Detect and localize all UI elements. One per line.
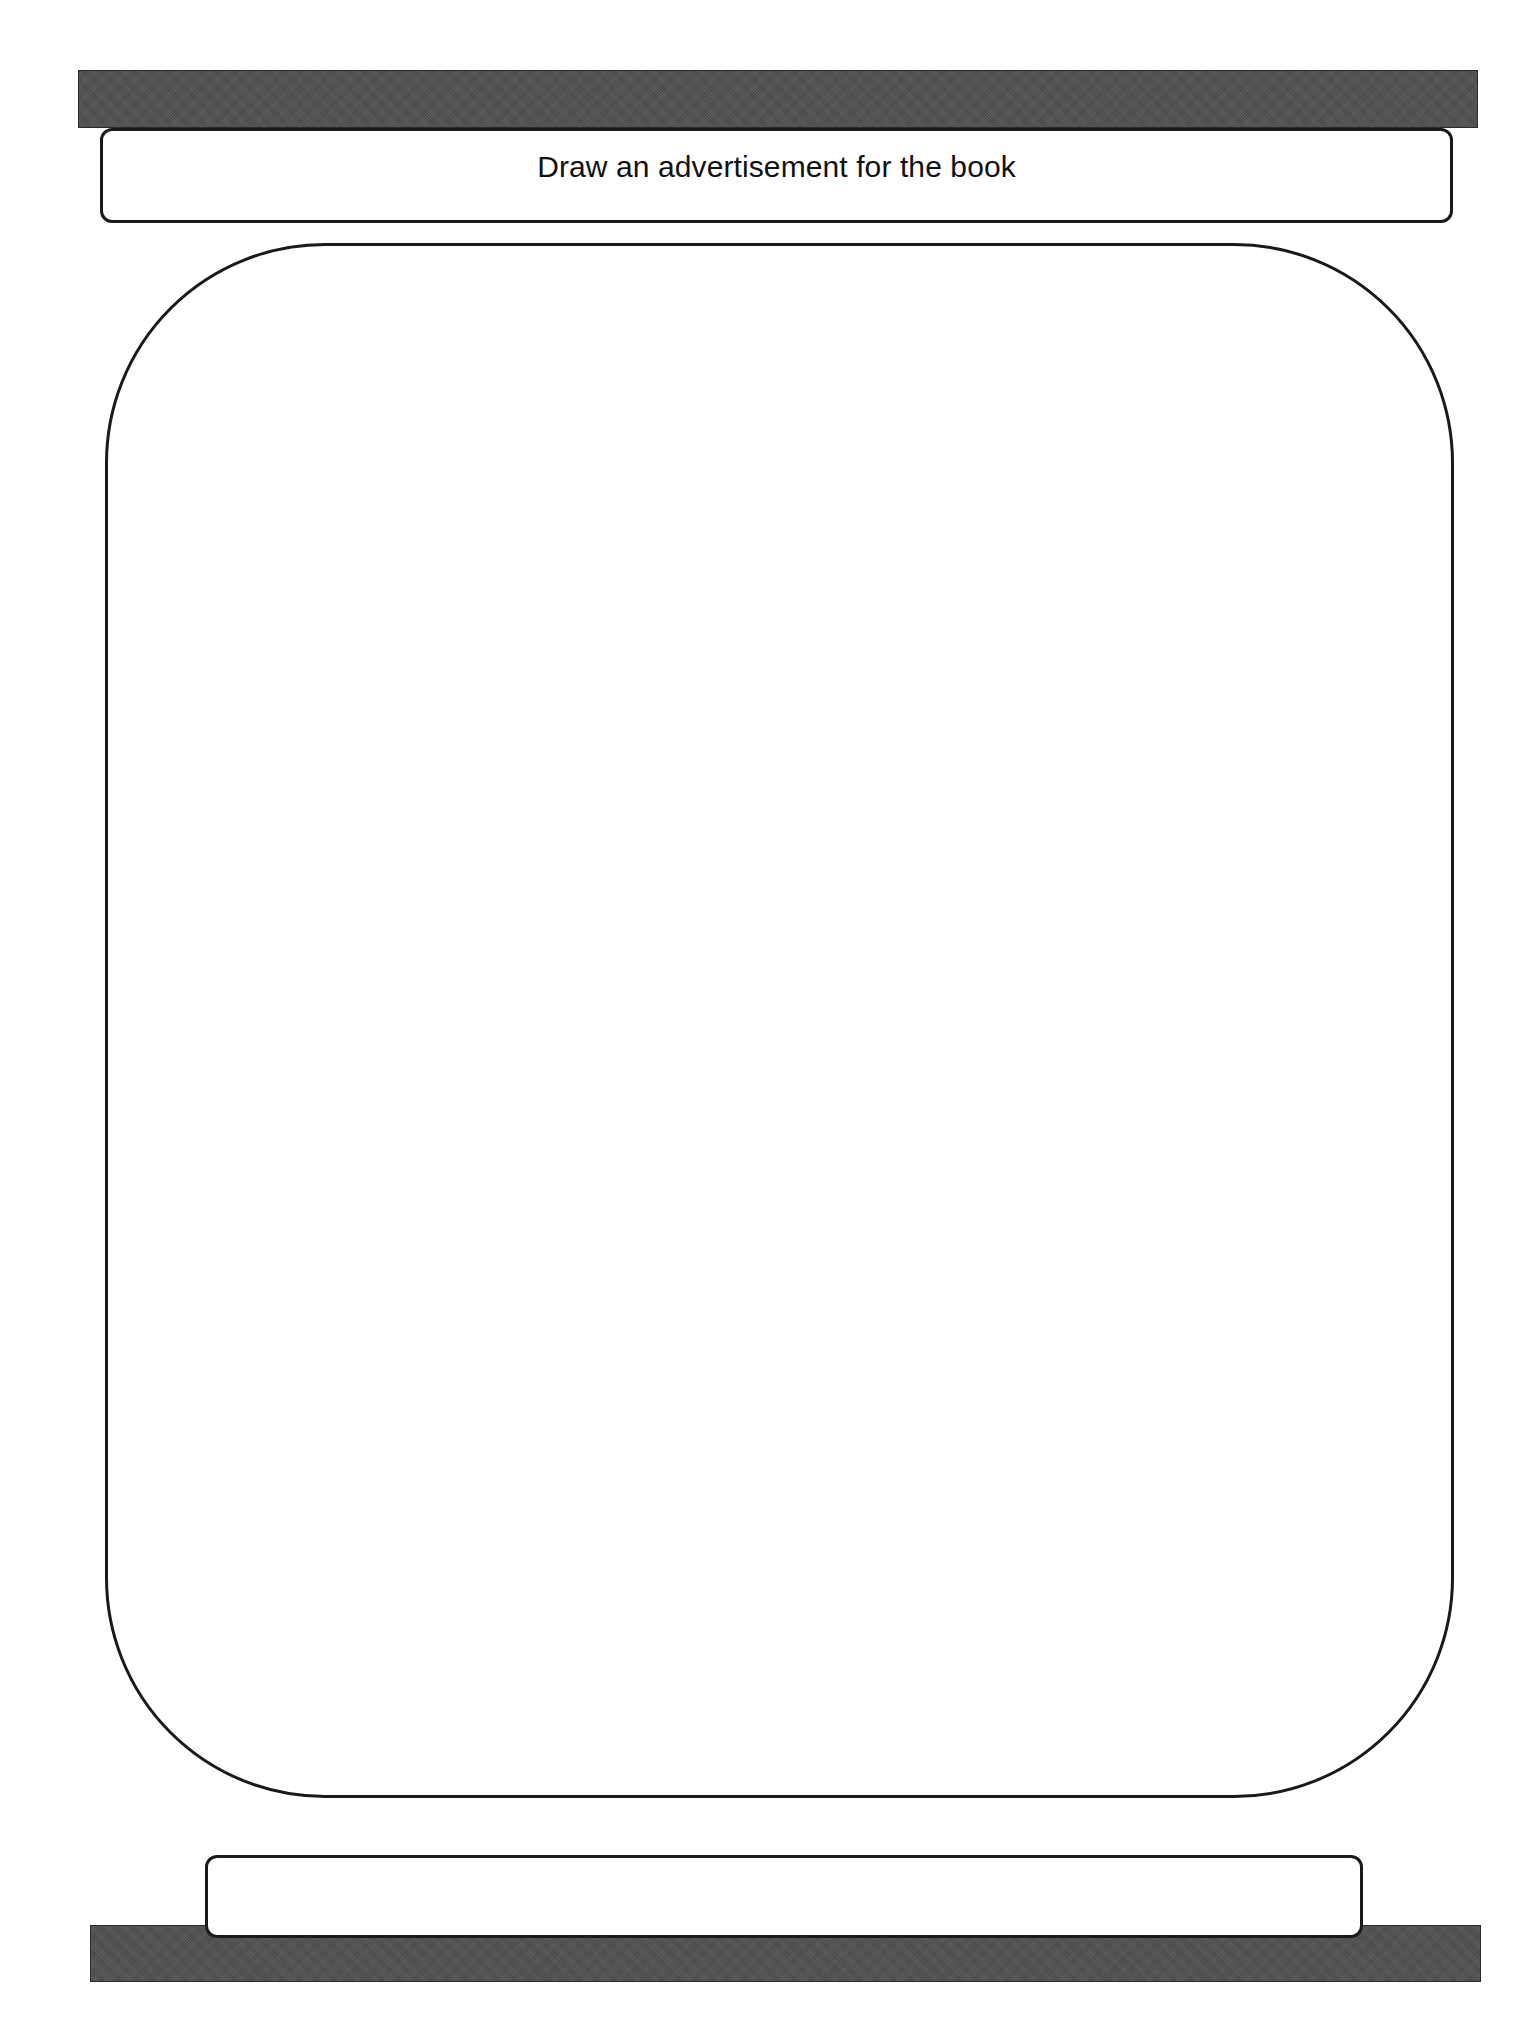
top-decorative-bar xyxy=(78,70,1478,128)
caption-box[interactable] xyxy=(205,1855,1363,1938)
drawing-area[interactable] xyxy=(105,243,1454,1798)
worksheet-prompt: Draw an advertisement for the book xyxy=(537,149,1016,185)
title-box: Draw an advertisement for the book xyxy=(100,128,1453,223)
